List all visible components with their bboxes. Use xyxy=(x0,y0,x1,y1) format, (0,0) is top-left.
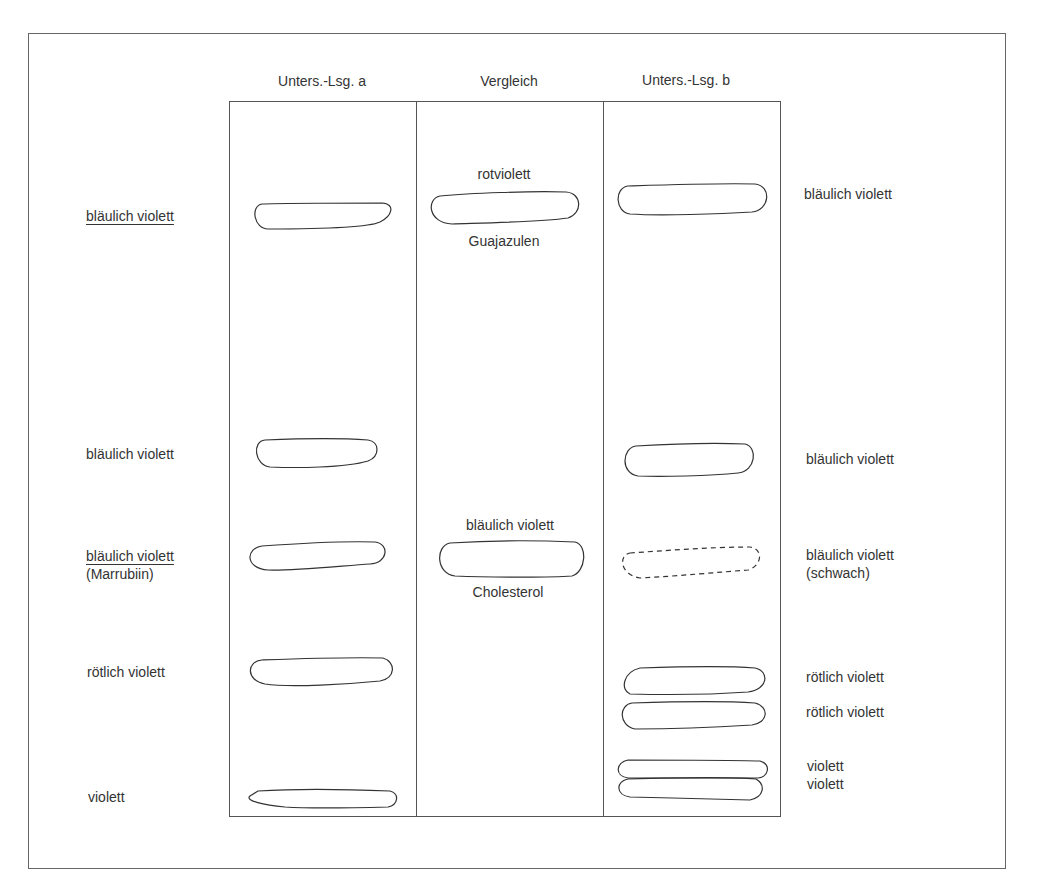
spot-b3-faint xyxy=(623,547,760,578)
right-label-5: rötlich violett xyxy=(806,704,884,721)
right-label-1: bläulich violett xyxy=(804,186,892,203)
left-label-5: violett xyxy=(88,789,125,806)
spot-b4 xyxy=(624,667,765,695)
ref-label-rotviolett: rotviolett xyxy=(478,166,531,183)
spot-a3 xyxy=(250,542,385,570)
spot-a4 xyxy=(250,658,392,686)
spot-ref-guajazulen xyxy=(431,192,578,224)
ref-label-guajazulen: Guajazulen xyxy=(469,233,540,250)
ref-label-cholesterol: Cholesterol xyxy=(473,584,544,601)
right-label-6: violett xyxy=(807,758,844,775)
right-label-3-sub: (schwach) xyxy=(806,565,870,582)
left-label-3-sub: (Marrubiin) xyxy=(86,566,154,583)
spot-b1 xyxy=(618,184,767,215)
right-label-4: rötlich violett xyxy=(806,669,884,686)
left-label-1: bläulich violett xyxy=(86,208,174,225)
spot-b2 xyxy=(625,444,753,477)
spot-a1 xyxy=(255,203,391,229)
left-label-2: bläulich violett xyxy=(86,446,174,463)
spot-b5 xyxy=(622,702,765,729)
right-label-2: bläulich violett xyxy=(806,451,894,468)
right-label-3: bläulich violett xyxy=(806,547,894,564)
left-label-4: rötlich violett xyxy=(87,664,165,681)
spot-b6 xyxy=(618,760,767,778)
right-label-7: violett xyxy=(807,776,844,793)
left-label-3: bläulich violett xyxy=(86,548,174,565)
ref-label-blaeulich-violett: bläulich violett xyxy=(466,517,554,534)
spot-a2 xyxy=(256,439,377,468)
spot-b7 xyxy=(619,778,762,800)
spot-ref-cholesterol xyxy=(440,541,584,577)
spot-a5 xyxy=(249,790,397,808)
